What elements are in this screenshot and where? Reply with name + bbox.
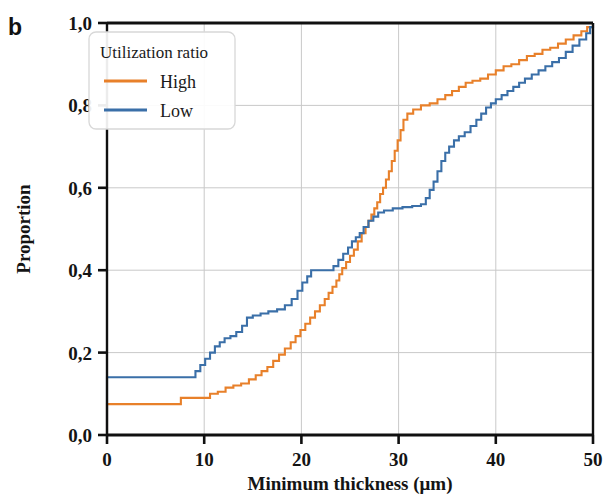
x-axis-title: Minimum thickness (μm): [248, 473, 453, 495]
y-tick-label: 1,0: [68, 13, 92, 34]
y-axis-title: Proportion: [13, 184, 34, 274]
legend-title: Utilization ratio: [100, 43, 208, 62]
y-tick-label: 0,0: [68, 425, 92, 446]
x-tick-label: 50: [584, 449, 603, 470]
y-tick-label: 0,2: [68, 343, 92, 364]
figure-panel-b: b 01020304050 0,00,20,40,60,81,0 Minimum…: [0, 0, 611, 497]
legend-label-low: Low: [160, 101, 193, 121]
y-tick-label: 0,6: [68, 178, 92, 199]
ecdf-chart: 01020304050 0,00,20,40,60,81,0 Minimum t…: [0, 0, 611, 497]
x-tick-label: 20: [292, 449, 311, 470]
legend: Utilization ratio HighLow: [89, 32, 235, 129]
legend-label-high: High: [160, 72, 196, 92]
y-tick-label: 0,4: [68, 260, 92, 281]
x-tick-label: 10: [195, 449, 214, 470]
x-tick-label: 40: [486, 449, 505, 470]
x-tick-label: 0: [102, 449, 112, 470]
x-tick-label: 30: [389, 449, 408, 470]
x-axis-ticks: 01020304050: [102, 435, 602, 470]
